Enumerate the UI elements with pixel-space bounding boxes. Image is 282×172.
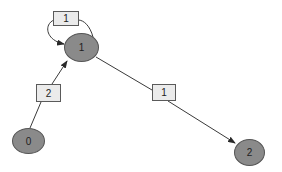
graph-node-1: 1 (64, 33, 99, 62)
edge-weight-label-0-1: 2 (36, 84, 61, 102)
graph-node-0: 0 (12, 128, 45, 154)
graph-canvas: 1 2 1 0 1 2 (0, 0, 282, 172)
edge-weight-label-1-1: 1 (53, 11, 79, 26)
edge-weight-label-1-2: 1 (152, 84, 176, 101)
graph-node-2: 2 (234, 139, 265, 166)
